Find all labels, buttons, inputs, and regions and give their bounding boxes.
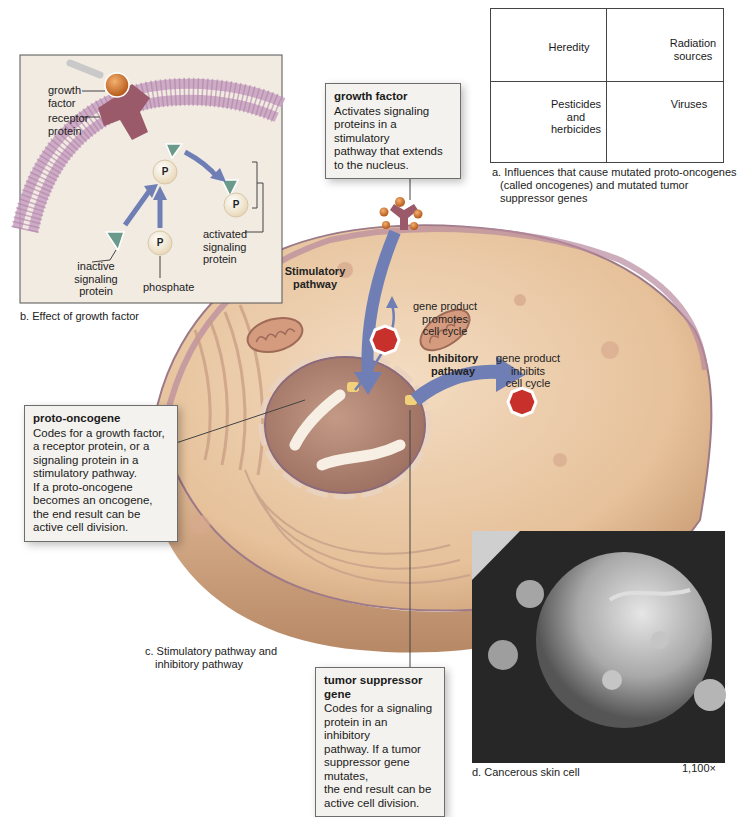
callout-tumor-suppressor-gene: tumor suppressor gene Codes for a signal… <box>315 667 445 817</box>
caption-panel-a: a. Influences that cause mutated proto-o… <box>492 166 742 205</box>
label-viruses: Viruses <box>659 98 719 111</box>
octagon-promotes <box>371 326 399 354</box>
caption-panel-c: c. Stimulatory pathway and inhibitory pa… <box>145 645 277 671</box>
callout-title: proto-oncogene <box>33 412 169 426</box>
grid-divider-horizontal <box>491 81 723 82</box>
label-stimulatory-pathway: Stimulatorypathway <box>275 265 355 290</box>
label-pesticides-herbicides: Pesticidesandherbicides <box>543 98 609 136</box>
magnification-label: 1,100× <box>682 762 716 775</box>
grid-divider-vertical <box>606 9 607 162</box>
callout-proto-oncogene: proto-oncogene Codes for a growth factor… <box>24 405 178 542</box>
phosphate-symbol-3: P <box>154 237 166 250</box>
caption-panel-b: b. Effect of growth factor <box>20 310 139 323</box>
callout-title: growth factor <box>334 90 452 104</box>
caption-panel-d: d. Cancerous skin cell <box>472 766 580 779</box>
label-gene-product-inhibits: gene productinhibitscell cycle <box>488 352 568 390</box>
label-gene-product-promotes: gene productpromotescell cycle <box>405 300 485 338</box>
label-radiation-sources: Radiationsources <box>663 37 723 62</box>
octagon-inhibits <box>508 388 536 416</box>
panel-a-grid: Heredity Radiationsources Pesticidesandh… <box>490 8 724 163</box>
label-growth-factor-b: growthfactor <box>48 84 81 109</box>
label-inactive-signaling-protein: inactivesignalingprotein <box>66 260 126 298</box>
sem-photo <box>472 531 726 763</box>
label-receptor-protein: receptorprotein <box>48 112 88 137</box>
callout-title: tumor suppressor gene <box>324 674 436 701</box>
label-activated-signaling-protein: activatedsignalingprotein <box>203 228 247 266</box>
label-heredity: Heredity <box>539 41 599 54</box>
phosphate-symbol-2: P <box>230 199 242 212</box>
label-inhibitory-pathway: Inhibitorypathway <box>418 352 488 377</box>
callout-growth-factor: growth factor Activates signaling protei… <box>325 83 461 179</box>
phosphate-symbol-1: P <box>159 166 171 179</box>
label-phosphate: phosphate <box>143 281 194 294</box>
growth-factor-receptor-top <box>380 197 423 230</box>
